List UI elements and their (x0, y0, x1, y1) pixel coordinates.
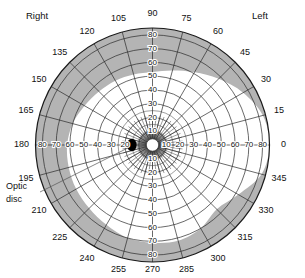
meridian-label-210: 210 (32, 205, 47, 215)
meridian-label-60: 60 (213, 26, 223, 36)
radial-tick-label: 70 (52, 140, 61, 149)
meridian-label-75: 75 (181, 13, 191, 23)
meridian-label-285: 285 (179, 264, 194, 274)
side-label-right: Right (26, 10, 49, 21)
fixation-point (146, 139, 158, 151)
radial-tick-label: 20 (121, 140, 130, 149)
meridian-label-270: 270 (145, 264, 160, 274)
radial-tick-label: 60 (231, 140, 240, 149)
perimetry-plot: 1020304050607080203040506070801020304050… (0, 0, 305, 278)
radial-tick-label: 30 (107, 140, 116, 149)
radial-tick-label: 10 (148, 154, 157, 163)
meridian-label-15: 15 (274, 105, 284, 115)
meridian-label-315: 315 (238, 232, 253, 242)
radial-tick-label: 40 (93, 140, 102, 149)
radial-tick-label: 40 (148, 85, 157, 94)
radial-tick-label: 70 (148, 236, 157, 245)
radial-tick-label: 10 (162, 140, 171, 149)
radial-tick-label: 80 (148, 30, 157, 39)
meridian-label-345: 345 (272, 173, 287, 183)
meridian-label-300: 300 (210, 253, 225, 263)
radial-tick-label: 50 (217, 140, 226, 149)
radial-tick-label: 30 (148, 181, 157, 190)
visual-field-chart: 1020304050607080203040506070801020304050… (0, 0, 305, 278)
optic-disc-label-line2: disc (6, 194, 23, 204)
radial-tick-label: 70 (148, 44, 157, 53)
meridian-label-30: 30 (261, 74, 271, 84)
meridian-label-90: 90 (147, 8, 157, 18)
radial-tick-label: 60 (148, 58, 157, 67)
radial-tick-label: 40 (148, 195, 157, 204)
radial-tick-label: 60 (148, 223, 157, 232)
radial-tick-label: 20 (148, 113, 157, 122)
optic-disc-label-line1: Optic (6, 181, 28, 191)
meridian-label-165: 165 (18, 105, 33, 115)
meridian-label-150: 150 (32, 74, 47, 84)
radial-tick-label: 30 (189, 140, 198, 149)
meridian-label-255: 255 (111, 264, 126, 274)
radial-tick-label: 70 (244, 140, 253, 149)
radial-tick-label: 50 (148, 209, 157, 218)
radial-tick-label: 80 (148, 250, 157, 259)
meridian-label-135: 135 (52, 47, 67, 57)
radial-tick-label: 20 (148, 168, 157, 177)
radial-tick-label: 50 (79, 140, 88, 149)
meridian-label-105: 105 (111, 13, 126, 23)
meridian-label-225: 225 (52, 232, 67, 242)
side-label-left: Left (252, 10, 268, 21)
radial-tick-label: 10 (148, 126, 157, 135)
radial-tick-label: 60 (65, 140, 74, 149)
radial-tick-label: 50 (148, 71, 157, 80)
meridian-label-0: 0 (281, 139, 286, 149)
radial-tick-label: 80 (258, 140, 267, 149)
meridian-label-120: 120 (79, 26, 94, 36)
radial-tick-label: 30 (148, 99, 157, 108)
meridian-label-330: 330 (258, 205, 273, 215)
meridian-label-180: 180 (14, 139, 29, 149)
radial-tick-label: 80 (38, 140, 47, 149)
meridian-label-240: 240 (79, 253, 94, 263)
meridian-label-45: 45 (240, 47, 250, 57)
radial-tick-label: 20 (176, 140, 185, 149)
radial-tick-label: 40 (203, 140, 212, 149)
